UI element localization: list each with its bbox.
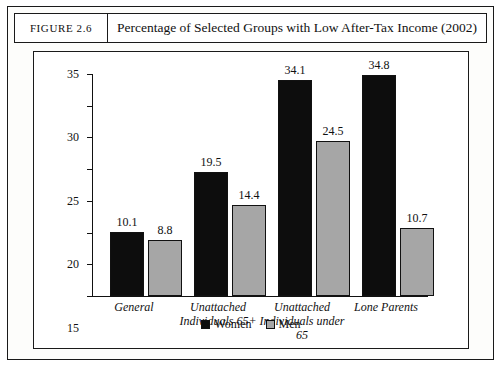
bar-women[interactable]: 34.8	[362, 75, 396, 296]
bar-group: 34.810.7Lone Parents	[344, 74, 428, 296]
bar-value-label: 19.5	[201, 155, 222, 170]
y-tick-label: 30	[67, 130, 79, 145]
legend-label: Women	[214, 317, 251, 332]
bar-value-label: 24.5	[323, 124, 344, 139]
y-tick-label: 20	[67, 257, 79, 272]
figure-title: Percentage of Selected Groups with Low A…	[108, 14, 486, 42]
legend-swatch-icon	[266, 320, 275, 329]
y-tick-label: 25	[67, 193, 79, 208]
x-axis-line	[92, 296, 428, 297]
bar-group: 10.18.8General	[92, 74, 176, 296]
legend-entry-women[interactable]: Women	[201, 317, 251, 332]
chart-plot-frame: 05101520253035 10.18.8General19.514.4Una…	[33, 51, 469, 349]
bar-men[interactable]: 10.7	[400, 228, 434, 296]
bar-women[interactable]: 34.1	[278, 80, 312, 296]
bar-group: 19.514.4UnattachedIndividuals 65+	[176, 74, 260, 296]
bar-value-label: 8.8	[158, 223, 173, 238]
legend-label: Men	[279, 317, 301, 332]
bar-value-label: 10.7	[407, 211, 428, 226]
chart-legend: WomenMen	[34, 317, 468, 332]
figure-header: FIGURE 2.6 Percentage of Selected Groups…	[14, 13, 487, 43]
bar-value-label: 10.1	[117, 215, 138, 230]
legend-entry-men[interactable]: Men	[266, 317, 301, 332]
bar-value-label: 34.1	[285, 63, 306, 78]
x-category-label: Lone Parents	[331, 300, 441, 314]
bar-value-label: 34.8	[369, 58, 390, 73]
bar-women[interactable]: 10.1	[110, 232, 144, 296]
bar-group: 34.124.5UnattachedIndividuals under65	[260, 74, 344, 296]
figure-number-label: FIGURE 2.6	[15, 14, 108, 42]
y-tick-mark: 0	[87, 296, 92, 297]
bar-value-label: 14.4	[239, 188, 260, 203]
figure-card: FIGURE 2.6 Percentage of Selected Groups…	[7, 6, 494, 360]
y-tick-label: 35	[67, 67, 79, 82]
legend-swatch-icon	[201, 320, 210, 329]
bar-women[interactable]: 19.5	[194, 172, 228, 296]
chart-plot-area: 05101520253035 10.18.8General19.514.4Una…	[92, 74, 428, 296]
